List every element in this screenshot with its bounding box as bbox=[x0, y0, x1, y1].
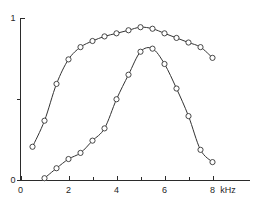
data-point bbox=[138, 25, 143, 30]
x-tick-label-8: 8 bbox=[210, 185, 215, 195]
x-axis-title: kHz bbox=[220, 185, 236, 195]
data-point bbox=[210, 55, 215, 60]
data-point bbox=[42, 176, 47, 181]
data-point bbox=[126, 72, 131, 77]
data-point bbox=[198, 147, 203, 152]
data-point bbox=[102, 126, 107, 131]
data-point bbox=[138, 49, 143, 54]
series-lower-markers bbox=[42, 46, 215, 181]
data-point bbox=[186, 114, 191, 119]
data-point bbox=[174, 86, 179, 91]
x-tick-label-2: 2 bbox=[66, 185, 71, 195]
data-point bbox=[150, 46, 155, 51]
plot-area: 02468 1 0 kHz bbox=[0, 0, 261, 201]
data-point bbox=[90, 38, 95, 43]
data-point bbox=[198, 45, 203, 50]
data-point bbox=[162, 61, 167, 66]
data-point bbox=[66, 156, 71, 161]
data-point bbox=[210, 160, 215, 165]
x-axis-ticks bbox=[22, 176, 214, 181]
data-point bbox=[162, 31, 167, 36]
data-point bbox=[174, 35, 179, 40]
data-point bbox=[126, 28, 131, 33]
data-point bbox=[114, 97, 119, 102]
data-point bbox=[102, 34, 107, 39]
x-tick-label-0: 0 bbox=[18, 185, 23, 195]
data-point bbox=[54, 166, 59, 171]
data-point bbox=[42, 118, 47, 123]
y-axis-label-top: 1 bbox=[10, 13, 15, 23]
data-point bbox=[78, 45, 83, 50]
data-point bbox=[114, 31, 119, 36]
x-axis-tick-labels: 02468 bbox=[18, 185, 215, 195]
x-tick-label-4: 4 bbox=[114, 185, 119, 195]
chart-figure: 02468 1 0 kHz bbox=[0, 0, 261, 201]
data-point bbox=[150, 26, 155, 31]
y-axis-label-bottom: 0 bbox=[10, 175, 15, 185]
data-point bbox=[186, 40, 191, 45]
data-point bbox=[66, 57, 71, 62]
x-tick-label-6: 6 bbox=[162, 185, 167, 195]
data-point bbox=[30, 144, 35, 149]
data-point bbox=[54, 81, 59, 86]
data-point bbox=[78, 150, 83, 155]
data-point bbox=[90, 138, 95, 143]
